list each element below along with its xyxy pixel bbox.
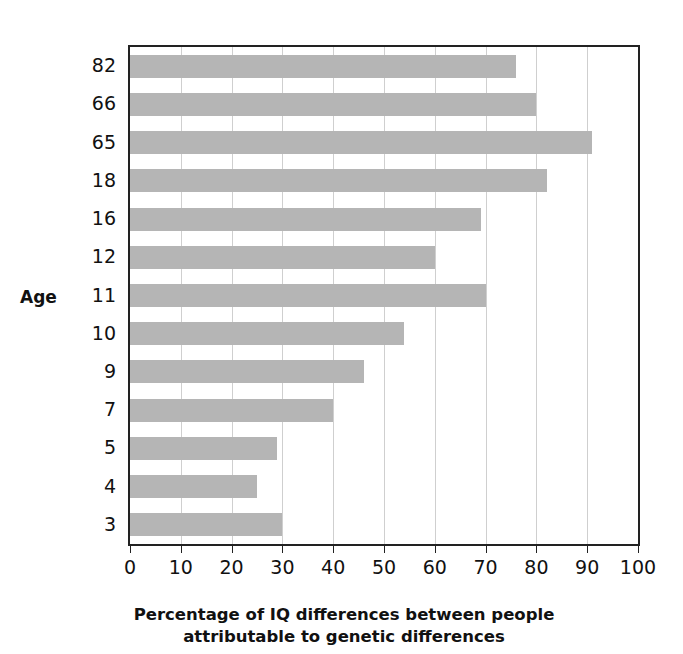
y-axis-tick-65: 65 (56, 133, 116, 152)
x-axis-tickmark-10 (181, 544, 182, 553)
y-axis-tick-66: 66 (56, 94, 116, 113)
x-axis-tickmark-90 (587, 544, 588, 553)
bar-row (130, 47, 638, 85)
bar-row (130, 85, 638, 123)
y-axis-tick-11: 11 (56, 286, 116, 305)
bar-age-11 (130, 284, 486, 307)
x-axis-tickmark-0 (130, 544, 131, 553)
y-axis-tick-3: 3 (56, 515, 116, 534)
bar-age-3 (130, 513, 282, 536)
y-axis-tick-16: 16 (56, 209, 116, 228)
bar-chart: Age 826665181612111097543 01020304050607… (0, 0, 683, 654)
bar-age-12 (130, 246, 435, 269)
bar-row (130, 468, 638, 506)
bar-row (130, 506, 638, 544)
x-axis-tickmark-80 (536, 544, 537, 553)
bar-row (130, 200, 638, 238)
x-axis-tickmark-70 (486, 544, 487, 553)
x-axis-tickmark-30 (282, 544, 283, 553)
plot-area (128, 45, 640, 546)
x-axis-tick-100: 100 (608, 556, 668, 578)
bar-age-7 (130, 399, 333, 422)
y-axis-tick-12: 12 (56, 247, 116, 266)
bar-age-82 (130, 55, 516, 78)
bar-age-10 (130, 322, 404, 345)
x-axis-tickmark-50 (384, 544, 385, 553)
x-axis-title: Percentage of IQ differences between peo… (64, 604, 624, 648)
bar-age-66 (130, 93, 536, 116)
bar-row (130, 123, 638, 161)
bar-age-5 (130, 437, 277, 460)
bar-row (130, 353, 638, 391)
y-axis-tick-7: 7 (56, 400, 116, 419)
bars-layer (130, 47, 638, 544)
bar-age-18 (130, 169, 547, 192)
bar-age-16 (130, 208, 481, 231)
y-axis-tick-18: 18 (56, 171, 116, 190)
y-axis-tick-4: 4 (56, 477, 116, 496)
x-axis-title-line-2: attributable to genetic differences (64, 626, 624, 648)
bar-age-65 (130, 131, 592, 154)
y-axis-tick-10: 10 (56, 324, 116, 343)
bar-row (130, 315, 638, 353)
x-axis-tickmark-60 (435, 544, 436, 553)
x-axis-tickmark-20 (232, 544, 233, 553)
bar-row (130, 276, 638, 314)
x-axis-tickmark-100 (638, 544, 639, 553)
y-axis-tick-5: 5 (56, 438, 116, 457)
y-axis-tick-9: 9 (56, 362, 116, 381)
x-axis-tickmark-40 (333, 544, 334, 553)
bar-row (130, 391, 638, 429)
bar-row (130, 238, 638, 276)
bar-age-9 (130, 360, 364, 383)
bar-row (130, 429, 638, 467)
x-axis-title-line-1: Percentage of IQ differences between peo… (64, 604, 624, 626)
bar-row (130, 162, 638, 200)
y-axis-tick-82: 82 (56, 56, 116, 75)
bar-age-4 (130, 475, 257, 498)
